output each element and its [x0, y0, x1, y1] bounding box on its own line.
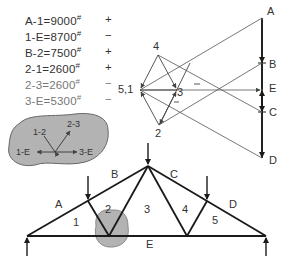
polygon-node-4: 4: [153, 40, 159, 52]
truss-space-a: A: [55, 198, 62, 210]
truss-space-e: E: [146, 238, 153, 250]
polygon-node-2: 2: [155, 127, 161, 139]
truss-panel-1: 1: [73, 216, 79, 228]
joint-free-body: [9, 114, 109, 166]
fbd-label-3-e: 3-E: [79, 147, 93, 157]
truss-space-c: C: [170, 168, 178, 180]
truss-panel-3: 3: [144, 203, 150, 215]
truss-panel-2: 2: [105, 203, 111, 215]
truss-panel-4: 4: [182, 203, 188, 215]
polygon-node-5-1: 5,1: [118, 83, 133, 95]
polygon-label-a: A: [267, 5, 274, 17]
polygon-label-b: B: [269, 58, 276, 70]
fbd-label-1-2: 1-2: [33, 127, 46, 137]
truss-space-b: B: [111, 168, 118, 180]
truss-panel-5: 5: [212, 214, 218, 226]
fbd-label-1-e: 1-E: [16, 147, 30, 157]
polygon-label-e: E: [269, 82, 276, 94]
truss-space-d: D: [229, 198, 237, 210]
truss-analysis-diagram: A-1=9000# + 1-E=8700# − B-2=7500# + 2-1=…: [0, 0, 289, 266]
polygon-label-d: D: [269, 154, 277, 166]
polygon-label-c: C: [269, 106, 277, 118]
polygon-node-3: 3: [177, 86, 183, 98]
fbd-label-2-3: 2-3: [67, 119, 80, 129]
